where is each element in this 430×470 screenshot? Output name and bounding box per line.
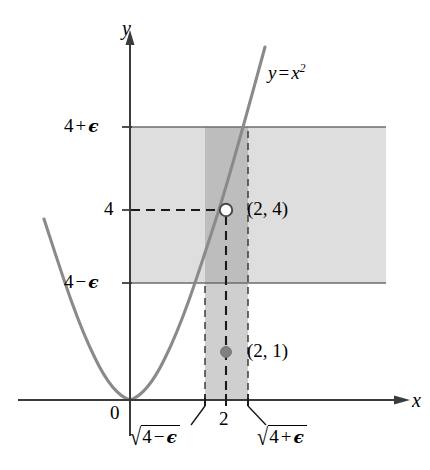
point-2-4-label-text: (2, 4) — [247, 198, 288, 219]
radical-group: √4+ϵ — [257, 424, 307, 448]
point-2-1-label: (2, 1) — [247, 341, 288, 360]
diagram-svg — [0, 0, 430, 470]
epsilon-symbol: ϵ — [88, 116, 98, 136]
radical-surd-icon: √ — [257, 425, 268, 449]
x-tick-label-sqrt-minus: √4−ϵ — [130, 424, 180, 448]
x-tick-label-two: 2 — [219, 409, 229, 428]
curve-eq-var: x — [291, 62, 299, 83]
x-axis-arrowhead — [394, 396, 410, 405]
origin-label: 0 — [110, 403, 120, 422]
radicand-op: − — [152, 426, 167, 447]
y-tick-label-epsilon-upper: 4+ϵ — [64, 116, 99, 135]
figure-canvas: y x 0 4+ϵ 4 4−ϵ √4−ϵ 2 √4+ϵ y=x2 (2, 4) … — [0, 0, 430, 470]
point-2-4-label: (2, 4) — [247, 199, 288, 218]
radicand-base: 4 — [269, 426, 279, 447]
radicand: 4−ϵ — [141, 425, 180, 446]
leader-sqrt-plus — [248, 406, 266, 425]
point-2-1-label-text: (2, 1) — [247, 340, 288, 361]
y-tick-label-four-text: 4 — [104, 198, 114, 219]
radical-surd-icon: √ — [130, 425, 141, 449]
y-tick-label-lower-op: − — [74, 271, 89, 292]
radicand-base: 4 — [142, 426, 152, 447]
y-tick-label-upper-base: 4 — [64, 115, 74, 136]
point-2-1-marker — [221, 347, 232, 358]
epsilon-symbol: ϵ — [166, 427, 176, 447]
origin-label-text: 0 — [110, 402, 120, 423]
epsilon-symbol: ϵ — [293, 427, 303, 447]
radicand: 4+ϵ — [268, 425, 307, 446]
x-tick-label-two-text: 2 — [219, 408, 229, 429]
y-tick-label-epsilon-lower: 4−ϵ — [64, 272, 99, 291]
curve-eq-rel: = — [276, 62, 291, 83]
point-2-4-marker — [220, 204, 232, 216]
x-axis-label: x — [412, 390, 421, 410]
y-axis-label: y — [122, 18, 131, 38]
y-tick-label-upper-op: + — [74, 115, 89, 136]
epsilon-symbol: ϵ — [88, 272, 98, 292]
y-tick-label-four: 4 — [104, 199, 114, 218]
curve-equation-label: y=x2 — [268, 62, 306, 82]
radical-group: √4−ϵ — [130, 424, 180, 448]
leader-sqrt-minus — [191, 406, 205, 425]
y-tick-label-lower-base: 4 — [64, 271, 74, 292]
y-axis-label-text: y — [122, 17, 131, 39]
x-axis-label-text: x — [412, 389, 421, 411]
curve-eq-exponent: 2 — [300, 61, 306, 75]
x-tick-label-sqrt-plus: √4+ϵ — [257, 424, 307, 448]
radicand-op: + — [279, 426, 294, 447]
